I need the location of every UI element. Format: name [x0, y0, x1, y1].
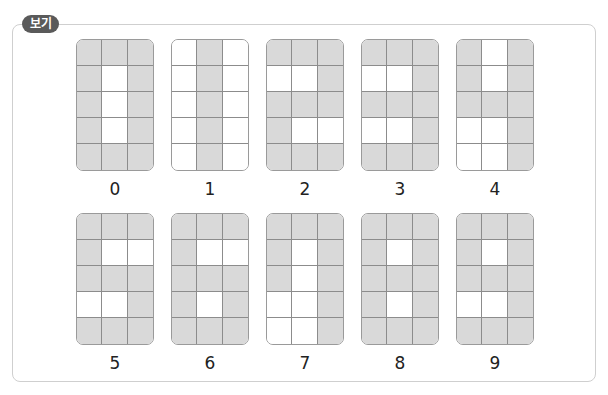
filled-cell — [457, 92, 482, 118]
empty-cell — [223, 40, 248, 66]
digit-card-4: 4 — [456, 39, 534, 199]
filled-cell — [387, 40, 412, 66]
empty-cell — [172, 66, 197, 92]
empty-cell — [223, 240, 248, 266]
filled-cell — [102, 266, 127, 292]
filled-cell — [267, 240, 292, 266]
filled-cell — [102, 214, 127, 240]
filled-cell — [197, 214, 222, 240]
filled-cell — [413, 318, 438, 344]
digit-label: 3 — [361, 179, 439, 199]
filled-cell — [77, 318, 102, 344]
cell-grid — [456, 213, 534, 345]
filled-cell — [362, 144, 387, 170]
filled-cell — [172, 318, 197, 344]
filled-cell — [387, 266, 412, 292]
cell-grid — [456, 39, 534, 171]
empty-cell — [387, 292, 412, 318]
empty-cell — [292, 292, 317, 318]
empty-cell — [362, 118, 387, 144]
filled-cell — [223, 292, 248, 318]
example-badge: 보기 — [22, 15, 59, 33]
empty-cell — [292, 118, 317, 144]
filled-cell — [197, 40, 222, 66]
filled-cell — [387, 144, 412, 170]
filled-cell — [77, 266, 102, 292]
filled-cell — [508, 144, 533, 170]
digit-card-5: 5 — [76, 213, 154, 373]
filled-cell — [197, 66, 222, 92]
digit-label: 4 — [456, 179, 534, 199]
filled-cell — [387, 92, 412, 118]
digit-card-2: 2 — [266, 39, 344, 199]
filled-cell — [197, 318, 222, 344]
filled-cell — [457, 40, 482, 66]
filled-cell — [318, 92, 343, 118]
filled-cell — [482, 266, 507, 292]
filled-cell — [128, 92, 153, 118]
filled-cell — [362, 92, 387, 118]
filled-cell — [318, 144, 343, 170]
filled-cell — [318, 292, 343, 318]
filled-cell — [457, 66, 482, 92]
filled-cell — [457, 214, 482, 240]
empty-cell — [292, 318, 317, 344]
filled-cell — [318, 318, 343, 344]
empty-cell — [267, 66, 292, 92]
filled-cell — [128, 40, 153, 66]
empty-cell — [457, 292, 482, 318]
filled-cell — [362, 266, 387, 292]
filled-cell — [197, 92, 222, 118]
filled-cell — [387, 214, 412, 240]
filled-cell — [223, 266, 248, 292]
filled-cell — [413, 40, 438, 66]
filled-cell — [267, 118, 292, 144]
empty-cell — [172, 118, 197, 144]
empty-cell — [482, 292, 507, 318]
filled-cell — [457, 318, 482, 344]
filled-cell — [172, 240, 197, 266]
digit-label: 5 — [76, 353, 154, 373]
filled-cell — [77, 118, 102, 144]
filled-cell — [77, 214, 102, 240]
digit-card-6: 6 — [171, 213, 249, 373]
empty-cell — [482, 240, 507, 266]
cell-grid — [171, 39, 249, 171]
filled-cell — [318, 214, 343, 240]
digit-label: 8 — [361, 353, 439, 373]
empty-cell — [172, 40, 197, 66]
empty-cell — [172, 92, 197, 118]
digit-label: 0 — [76, 179, 154, 199]
empty-cell — [292, 66, 317, 92]
empty-cell — [172, 144, 197, 170]
filled-cell — [318, 40, 343, 66]
filled-cell — [318, 266, 343, 292]
filled-cell — [482, 92, 507, 118]
empty-cell — [223, 66, 248, 92]
filled-cell — [362, 318, 387, 344]
empty-cell — [482, 144, 507, 170]
empty-cell — [457, 144, 482, 170]
filled-cell — [508, 292, 533, 318]
filled-cell — [172, 266, 197, 292]
empty-cell — [197, 292, 222, 318]
empty-cell — [102, 92, 127, 118]
filled-cell — [292, 214, 317, 240]
filled-cell — [292, 40, 317, 66]
filled-cell — [413, 66, 438, 92]
cell-grid — [76, 39, 154, 171]
filled-cell — [128, 66, 153, 92]
filled-cell — [267, 144, 292, 170]
filled-cell — [102, 40, 127, 66]
empty-cell — [387, 66, 412, 92]
empty-cell — [77, 292, 102, 318]
filled-cell — [77, 66, 102, 92]
filled-cell — [457, 266, 482, 292]
filled-cell — [77, 240, 102, 266]
empty-cell — [128, 240, 153, 266]
digit-card-9: 9 — [456, 213, 534, 373]
empty-cell — [292, 266, 317, 292]
filled-cell — [508, 240, 533, 266]
filled-cell — [362, 240, 387, 266]
filled-cell — [413, 266, 438, 292]
